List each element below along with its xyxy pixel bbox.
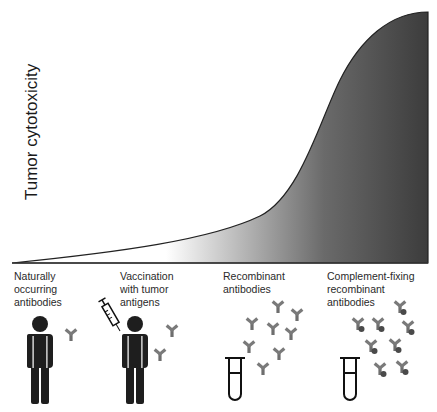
test-tube-icon [225, 358, 245, 400]
complement-antibody-icon [389, 338, 402, 353]
antibody-icon [65, 328, 78, 341]
stage-caption-vaccination: Vaccination with tumor antigens [120, 270, 174, 309]
antibody-icon [273, 347, 286, 360]
complement-antibody-icon [402, 320, 415, 335]
stage-caption-complement: Complement-fixing recombinant antibodies [327, 270, 415, 309]
antibody-icon [154, 348, 167, 361]
cytotoxicity-diagram [0, 0, 437, 412]
y-axis-label: Tumor cytotoxicity [22, 64, 42, 200]
stage-caption-natural: Naturally occurring antibodies [14, 270, 62, 309]
complement-antibody-icon [365, 339, 378, 354]
person-icon [27, 316, 53, 404]
test-tube-icon [340, 358, 360, 400]
antibody-icon [272, 300, 285, 313]
antibody-icon [166, 324, 179, 337]
complement-antibody-icon [396, 360, 409, 375]
complement-antibody-icon [372, 317, 385, 332]
antibody-icon [257, 362, 270, 375]
antibody-icon [267, 322, 280, 335]
antibody-icon [246, 317, 259, 330]
antibody-icon [291, 308, 304, 321]
cytotoxicity-curve [12, 12, 428, 263]
person-icon [122, 316, 148, 404]
antibody-icon [285, 327, 298, 340]
stage-caption-recombinant: Recombinant antibodies [223, 270, 285, 296]
complement-antibody-icon [352, 317, 365, 332]
antibody-icon [243, 340, 256, 353]
complement-antibody-icon [374, 362, 387, 377]
